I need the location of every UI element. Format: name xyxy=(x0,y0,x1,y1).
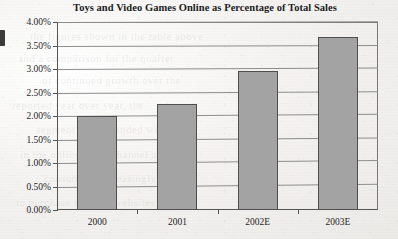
plot-area: 0.00%0.50%1.00%1.50%2.00%2.50%3.00%3.50%… xyxy=(57,22,378,210)
x-axis-tick-label: 2002E xyxy=(245,217,270,227)
y-axis-tick xyxy=(53,163,58,164)
x-axis-tick xyxy=(218,209,219,214)
y-axis-tick-label: 3.00% xyxy=(26,64,51,74)
y-axis-tick-label: 2.00% xyxy=(26,111,51,121)
y-axis-tick-label: 2.50% xyxy=(26,88,51,98)
bar xyxy=(238,71,278,210)
y-axis-tick xyxy=(53,210,58,211)
x-axis-tick-label: 2001 xyxy=(168,217,187,227)
bar xyxy=(77,116,117,210)
y-axis-tick-label: 1.50% xyxy=(26,135,51,145)
bar-chart: Toys and Video Games Online as Percentag… xyxy=(0,0,398,239)
bar xyxy=(157,104,197,210)
x-axis-tick-label: 2003E xyxy=(325,217,350,227)
chart-title: Toys and Video Games Online as Percentag… xyxy=(6,2,398,13)
y-axis-tick-label: 1.00% xyxy=(26,158,51,168)
x-axis-tick xyxy=(137,209,138,214)
x-axis-tick-label: 2000 xyxy=(88,217,107,227)
y-axis-tick xyxy=(53,69,58,70)
y-axis-tick xyxy=(53,22,58,23)
y-axis-tick-label: 0.50% xyxy=(26,182,51,192)
y-axis-tick xyxy=(53,116,58,117)
y-axis-tick xyxy=(53,46,58,47)
x-axis-tick xyxy=(298,209,299,214)
y-axis-tick xyxy=(53,187,58,188)
y-axis-tick xyxy=(53,140,58,141)
y-axis-tick-label: 4.00% xyxy=(26,17,51,27)
bar xyxy=(318,37,358,210)
y-axis-tick-label: 0.00% xyxy=(26,205,51,215)
y-axis-tick xyxy=(53,93,58,94)
y-axis-tick-label: 3.50% xyxy=(26,41,51,51)
